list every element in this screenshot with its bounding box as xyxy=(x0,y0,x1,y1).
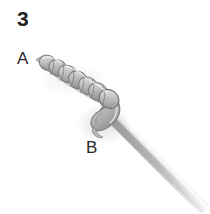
knot-figure: 3 A B xyxy=(0,0,210,214)
step-number-label: 3 xyxy=(17,8,29,29)
point-b-label: B xyxy=(86,139,97,156)
knot-illustration xyxy=(0,0,210,214)
point-a-label: A xyxy=(17,50,28,67)
